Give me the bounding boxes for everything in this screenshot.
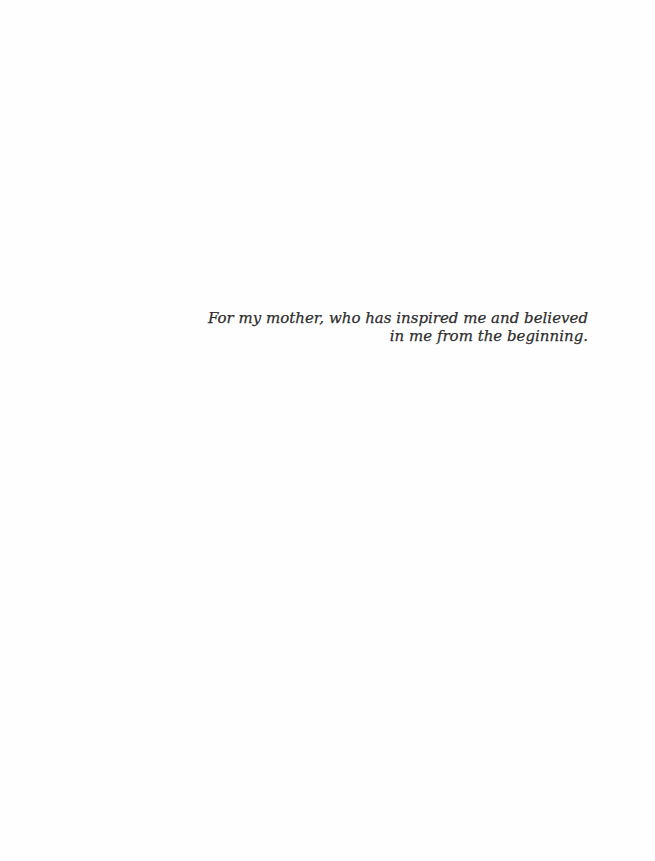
dedication-line-2: in me from the beginning.	[208, 327, 588, 345]
book-page: For my mother, who has inspired me and b…	[0, 0, 655, 861]
dedication-line-1: For my mother, who has inspired me and b…	[208, 309, 588, 327]
dedication-text: For my mother, who has inspired me and b…	[208, 309, 588, 345]
